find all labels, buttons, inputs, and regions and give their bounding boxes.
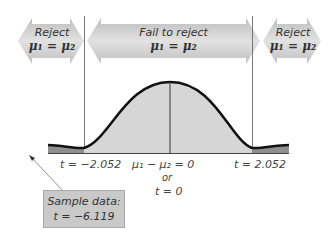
- fail-to-reject-label: Fail to reject μ₁ = μ₂: [101, 26, 246, 53]
- sample-data-value: t = −6.119: [44, 209, 124, 224]
- left-critical-label: t = −2.052: [60, 158, 121, 171]
- reject-left-label: Reject μ₁ = μ₂: [22, 26, 82, 53]
- reject-left-hypothesis: μ₁ = μ₂: [22, 39, 82, 53]
- sample-data-box: Sample data: t = −6.119: [43, 190, 125, 228]
- reject-right-text: Reject: [265, 26, 321, 39]
- center-t-label: t = 0: [155, 185, 183, 198]
- reject-right-hypothesis: μ₁ = μ₂: [265, 39, 321, 53]
- center-or-label: or: [162, 172, 172, 183]
- center-label: μ₁ − μ₂ = 0: [132, 158, 194, 171]
- pointer-line: [32, 158, 62, 190]
- sample-data-title: Sample data:: [44, 194, 124, 209]
- fail-to-reject-hypothesis: μ₁ = μ₂: [101, 39, 246, 53]
- acceptance-region: [84, 82, 252, 153]
- reject-right-label: Reject μ₁ = μ₂: [265, 26, 321, 53]
- fail-to-reject-text: Fail to reject: [101, 26, 246, 39]
- right-critical-label: t = 2.052: [234, 158, 286, 171]
- reject-left-text: Reject: [22, 26, 82, 39]
